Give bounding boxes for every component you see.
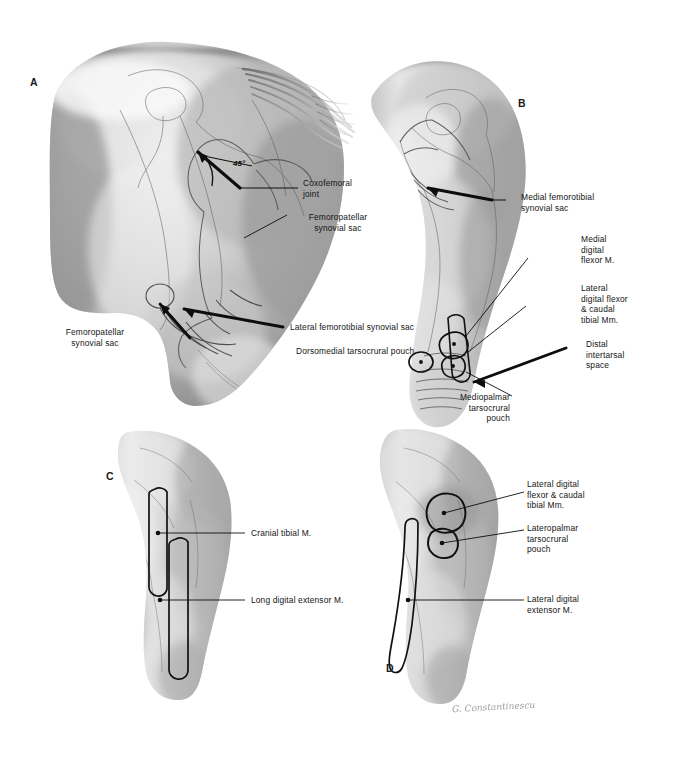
- label-distal-intertarsal-space: Distal intertarsal space: [586, 339, 676, 371]
- panel-letter-b: B: [518, 97, 526, 109]
- label-mediopalmar-tarsocrural-pouch: Mediopalmar tarsocrural pouch: [406, 392, 510, 424]
- label-lateral-femorotibial-synovial-sac: Lateral femorotibial synovial sac: [290, 322, 480, 333]
- panel-letter-a: A: [30, 76, 38, 88]
- anatomy-plate: A B C D 45° Coxofemoral joint Femoropate…: [0, 0, 683, 771]
- angle-45-label: 45°: [233, 159, 245, 168]
- label-lateral-digital-flexor-caudal-tibial-mm: Lateral digital flexor & caudal tibial M…: [581, 283, 677, 325]
- panel-letter-d: D: [386, 662, 394, 674]
- label-dorsomedial-tarsocrural-pouch: Dorsomedial tarsocrural pouch: [296, 346, 476, 357]
- label-long-digital-extensor-m: Long digital extensor M.: [251, 595, 401, 606]
- label-lateropalmar-tarsocrural-pouch: Lateropalmar tarsocrural pouch: [527, 523, 637, 555]
- label-coxofemoral-joint: Coxofemoral joint: [303, 178, 393, 199]
- label-femoropatellar-synovial-sac-left: Femoropatellar synovial sac: [40, 327, 150, 348]
- label-lateral-digital-flexor-caudal-tibial-mm-d: Lateral digital flexor & caudal tibial M…: [527, 479, 647, 511]
- label-lateral-digital-extensor-m: Lateral digital extensor M.: [527, 594, 647, 615]
- illustration-artwork: [0, 0, 683, 771]
- label-femoropatellar-synovial-sac-right: Femoropatellar synovial sac: [288, 212, 388, 233]
- panel-letter-c: C: [106, 470, 114, 482]
- label-medial-digital-flexor-m: Medial digital flexor M.: [581, 234, 671, 266]
- label-medial-femorotibial-synovial-sac: Medial femorotibial synovial sac: [521, 192, 661, 213]
- label-cranial-tibial-m: Cranial tibial M.: [251, 528, 381, 539]
